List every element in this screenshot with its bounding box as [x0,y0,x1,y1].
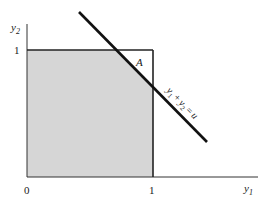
origin-label: 0 [24,184,30,196]
x-tick-1: 1 [149,184,155,196]
x-axis-label: y1 [243,182,253,197]
region-a-label: A [135,56,143,68]
diagram: A y2 1 0 1 y1 y1+y2=u [0,0,274,202]
y-tick-1: 1 [14,44,20,56]
y-axis-label: y2 [10,21,20,36]
